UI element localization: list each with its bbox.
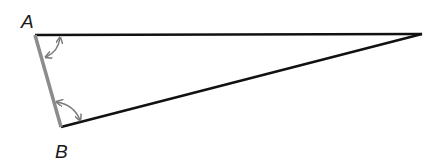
vertex-label-a: A [20, 11, 34, 32]
edge-ab [35, 35, 61, 127]
edge-a-apex [35, 34, 422, 35]
triangle-diagram: A B [0, 0, 441, 165]
vertex-label-b: B [55, 141, 68, 162]
angle-a-arc-icon [46, 38, 60, 57]
edge-b-apex [61, 34, 422, 127]
angle-b-arc-icon [57, 102, 80, 120]
